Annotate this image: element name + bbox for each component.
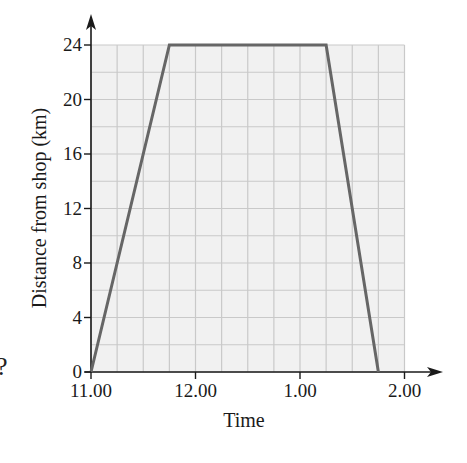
x-tick-label: 12.00 bbox=[174, 380, 217, 401]
y-tick-label: 24 bbox=[63, 34, 83, 55]
y-axis-title: Distance from shop (km) bbox=[28, 108, 51, 309]
y-tick-label: 4 bbox=[73, 307, 83, 328]
x-tick-label: 2.00 bbox=[388, 380, 421, 401]
y-tick-label: 20 bbox=[63, 89, 82, 110]
y-tick-label: 8 bbox=[73, 252, 83, 273]
y-tick-label: 16 bbox=[63, 143, 82, 164]
stray-glyph: ? bbox=[0, 352, 8, 382]
y-axis-ticks: 04812162024 bbox=[63, 34, 91, 382]
x-tick-label: 11.00 bbox=[70, 380, 112, 401]
y-tick-label: 12 bbox=[63, 198, 82, 219]
distance-time-chart: 04812162024 11.0012.001.002.00 Time Dist… bbox=[0, 0, 467, 463]
x-tick-label: 1.00 bbox=[283, 380, 316, 401]
grid bbox=[91, 45, 405, 372]
x-axis-ticks: 11.0012.001.002.00 bbox=[70, 372, 421, 401]
x-axis-title: Time bbox=[223, 409, 265, 431]
y-tick-label: 0 bbox=[73, 361, 83, 382]
